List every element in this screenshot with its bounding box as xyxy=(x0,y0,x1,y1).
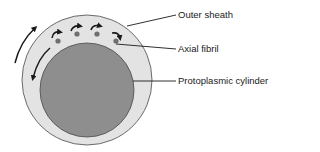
axial-fibril-dot xyxy=(74,31,79,36)
axial-fibril-dot xyxy=(55,38,60,43)
leader-line-outer-sheath xyxy=(127,15,176,26)
axial-fibril-dot xyxy=(113,38,118,43)
label-axial-fibril: Axial fibril xyxy=(178,43,219,54)
label-protoplasmic-cylinder: Protoplasmic cylinder xyxy=(178,75,268,86)
label-outer-sheath: Outer sheath xyxy=(178,9,233,20)
protoplasmic-cylinder xyxy=(40,43,134,137)
axial-fibril-dot xyxy=(94,31,99,36)
